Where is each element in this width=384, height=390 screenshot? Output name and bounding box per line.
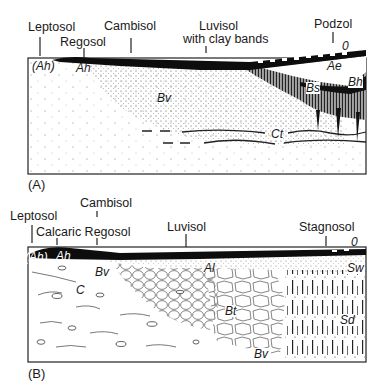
horizon-ct-a: Ct <box>271 128 283 140</box>
horizon-ae-a: Ae <box>327 60 342 72</box>
panel-b-label: (B) <box>28 367 45 380</box>
soil-label-leptosol-b: Leptosol <box>10 210 57 223</box>
horizon-ah-paren-a: (Ah) <box>32 60 55 72</box>
horizon-ah-b: Ah <box>56 250 71 262</box>
soil-label-stagnosol-b: Stagnosol <box>299 221 355 234</box>
soil-label-luvisol-a: Luvisol <box>199 20 238 33</box>
panel-a-label: (A) <box>28 178 45 191</box>
soil-label-podzol-a: Podzol <box>314 18 352 31</box>
horizon-bh-a: Bh <box>348 76 363 88</box>
horizon-o-a: 0 <box>342 40 349 52</box>
soil-label-luvisol-b: Luvisol <box>167 221 206 234</box>
horizon-bv-a: Bv <box>157 92 171 104</box>
horizon-bv2-b: Bv <box>254 348 268 360</box>
horizon-sw-b: Sw <box>347 262 364 274</box>
panel-a-profile <box>28 32 366 174</box>
horizon-c-b: C <box>76 284 85 296</box>
horizon-o-b: 0 <box>351 236 358 248</box>
soil-label-cambisol-b: Cambisol <box>80 197 132 210</box>
horizon-al-b: Al <box>204 262 215 274</box>
soil-label-regosol-a: Regosol <box>60 36 106 49</box>
soil-label-leptosol-a: Leptosol <box>28 21 75 34</box>
horizon-bv-b: Bv <box>95 266 109 278</box>
horizon-bt-b: Bt <box>225 305 236 317</box>
horizon-ah-a: Ah <box>76 62 91 74</box>
soil-label-clay-bands-a: with clay bands <box>183 33 268 46</box>
horizon-ah-paren-b: (Ah) <box>25 251 48 263</box>
horizon-bs-a: Bs <box>306 82 320 94</box>
soil-label-calcaric-regosol-b: Calcaric Regosol <box>36 226 130 239</box>
horizon-sd-b: Sd <box>340 314 355 326</box>
soil-label-cambisol-a: Cambisol <box>104 20 156 33</box>
